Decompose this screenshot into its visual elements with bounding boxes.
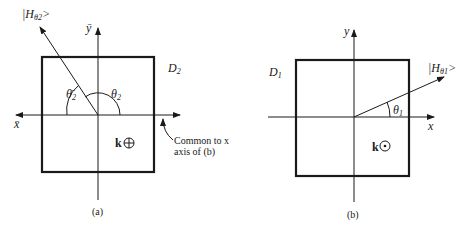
panel-a-angle-right-label: θ2 [111, 88, 121, 102]
panel-a-domain-label: D2 [168, 62, 181, 76]
panel-a-x-axis-label: x̄ [14, 118, 19, 130]
panel-b-caption: (b) [347, 210, 359, 220]
panel-b-k-label: k [372, 141, 379, 153]
panel-b-domain-label: D1 [269, 66, 282, 80]
panel-a-annotation-line1: Common to x [174, 136, 229, 146]
panel-a-state-label: |Hθ2> [22, 8, 50, 22]
panel-b-x-axis-label: x [428, 120, 433, 132]
panel-a-angle-left-label: θ̄2 [66, 88, 76, 102]
panel-b-box [296, 60, 409, 176]
diagram-canvas [0, 0, 476, 231]
panel-b-state-label: |Hθ1> [428, 62, 456, 76]
panel-a-k-label: k [115, 137, 122, 149]
panel-a-annotation-arrow [163, 119, 173, 140]
panel-a-graphics [16, 27, 180, 200]
panel-b-y-axis-label: y [344, 25, 349, 37]
panel-b-graphics [268, 30, 444, 202]
panel-a-y-axis-label: ȳ [86, 22, 91, 34]
panel-b-angle-label: θ1 [393, 104, 403, 118]
panel-a-annotation-line2: axis of (b) [174, 147, 215, 157]
panel-b-angle-arc [387, 102, 390, 117]
panel-a-caption: (a) [92, 207, 103, 217]
